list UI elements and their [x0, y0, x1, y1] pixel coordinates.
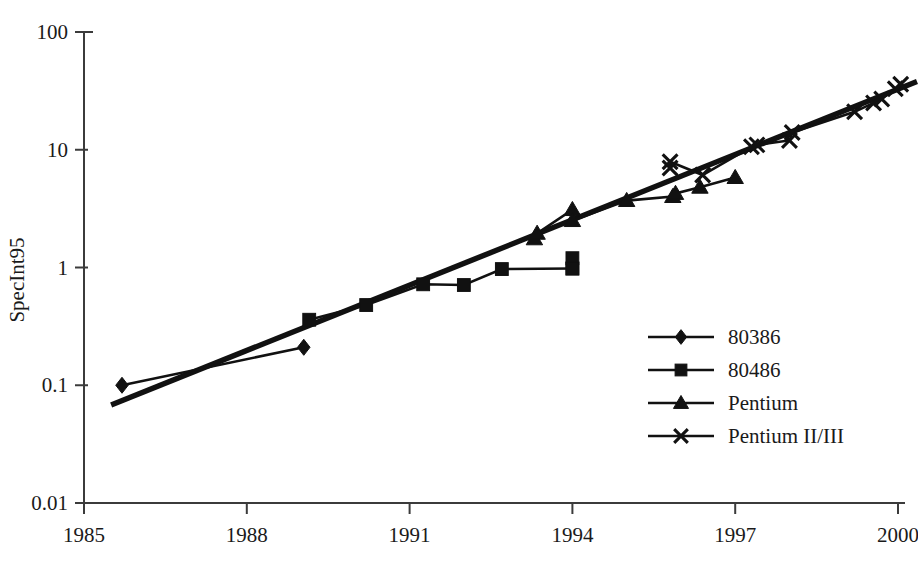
- x-tick-label: 1997: [714, 523, 756, 547]
- data-point-square: [360, 299, 373, 312]
- x-tick-label: 1991: [389, 523, 431, 547]
- plot-area: 0.010.1110100198519881991199419972000Spe…: [0, 0, 918, 563]
- x-tick-label: 2000: [877, 523, 918, 547]
- x-tick-label: 1988: [226, 523, 268, 547]
- y-tick-label: 100: [37, 20, 69, 44]
- data-point-square: [566, 262, 579, 275]
- data-point-square: [675, 364, 687, 376]
- series-80486-extra: [566, 252, 579, 275]
- x-tick-label: 1994: [551, 523, 594, 547]
- legend-item-pentium-ii-iii: Pentium II/III: [648, 424, 844, 448]
- legend-item-80386: 80386: [648, 325, 781, 349]
- data-point-square: [495, 263, 508, 276]
- x-tick-label: 1985: [63, 523, 105, 547]
- data-point-square: [417, 278, 430, 291]
- legend-label: 80386: [728, 325, 781, 349]
- series-path: [122, 347, 304, 385]
- y-tick-label: 1: [58, 256, 69, 280]
- series-path: [534, 178, 735, 239]
- legend-item-80486: 80486: [648, 358, 781, 382]
- data-point-diamond: [675, 330, 686, 345]
- legend-label: 80486: [728, 358, 781, 382]
- legend-label: Pentium: [728, 391, 798, 415]
- y-tick-label: 0.1: [42, 373, 68, 397]
- y-tick-label: 10: [47, 138, 68, 162]
- data-point-square: [303, 313, 316, 326]
- data-point-square: [457, 279, 470, 292]
- legend: 8038680486PentiumPentium II/III: [648, 325, 844, 448]
- y-tick-label: 0.01: [31, 491, 68, 515]
- y-axis-title: SpecInt95: [5, 237, 29, 322]
- series-80386: [116, 339, 310, 393]
- data-point-diamond: [116, 377, 128, 393]
- x-axis-ticks: 198519881991199419972000: [63, 494, 918, 547]
- data-point-triangle: [727, 169, 743, 183]
- series-path: [670, 84, 901, 175]
- legend-item-pentium: Pentium: [648, 391, 798, 415]
- legend-label: Pentium II/III: [728, 424, 844, 448]
- data-point-diamond: [298, 339, 310, 355]
- chart-figure: 0.010.1110100198519881991199419972000Spe…: [0, 0, 918, 563]
- series-pentium: [526, 169, 743, 244]
